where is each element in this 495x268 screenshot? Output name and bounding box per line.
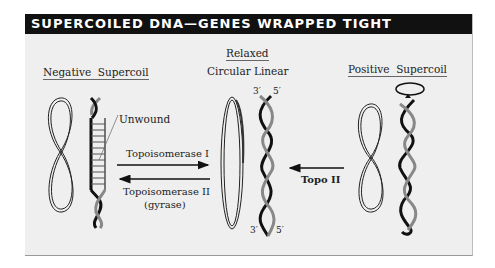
five-prime-top-label: 5′ — [273, 86, 281, 96]
negative-figure-eight-icon — [48, 98, 73, 212]
negative-word: Negative — [43, 66, 91, 78]
positive-word: Positive — [348, 63, 389, 75]
relaxed-linear-dna-icon — [260, 96, 274, 236]
supercoil-word: Supercoil — [396, 63, 447, 75]
positive-supercoil-label: Positive Supercoil — [348, 63, 447, 75]
three-prime-bottom-label: 3′ — [250, 225, 258, 235]
supercoil-word: Supercoil — [98, 66, 149, 78]
relaxed-heading: Relaxed — [226, 47, 269, 61]
unwound-label: Unwound — [119, 113, 170, 125]
positive-supercoil-dna-icon — [396, 83, 424, 234]
topo-ii-label: Topo II — [301, 174, 340, 185]
positive-figure-eight-icon — [358, 104, 383, 212]
topoisomerase-i-label: Topoisomerase I — [126, 148, 209, 159]
linear-label: Linear — [254, 65, 289, 77]
relaxed-circular-dna-icon — [221, 97, 243, 229]
topoisomerase-ii-label: Topoisomerase II — [123, 186, 210, 197]
five-prime-bottom-label: 5′ — [276, 225, 284, 235]
negative-supercoil-dna-icon — [91, 98, 118, 228]
three-prime-top-label: 3′ — [253, 86, 261, 96]
diagram-artwork — [0, 0, 495, 268]
negative-supercoil-label: Negative Supercoil — [43, 66, 149, 78]
circular-label: Circular — [207, 65, 251, 77]
gyrase-label: (gyrase) — [144, 199, 186, 210]
